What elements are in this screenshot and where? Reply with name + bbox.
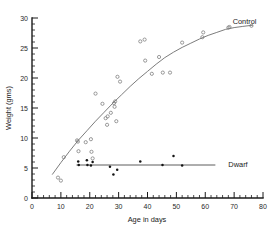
control-data-point [115, 120, 118, 123]
dwarf-data-point [86, 164, 89, 167]
x-tick-label: 50 [172, 203, 180, 210]
dwarf-data-point [77, 160, 80, 163]
y-tick-label: 10 [20, 135, 28, 142]
dwarf-data-point [112, 173, 115, 176]
y-tick-label: 20 [20, 75, 28, 82]
dwarf-data-point [161, 164, 164, 167]
control-data-point [104, 117, 107, 120]
y-tick-label: 15 [20, 105, 28, 112]
x-tick-label: 30 [115, 203, 123, 210]
fitted-curves [52, 25, 253, 174]
control-data-point [139, 40, 142, 43]
y-tick-label: 25 [20, 45, 28, 52]
dwarf-data-point [172, 155, 175, 158]
y-tick-label: 5 [24, 165, 28, 172]
dwarf-data-point [109, 166, 112, 169]
axes-group [32, 18, 263, 198]
x-axis-ticks: 01020304050607080 [30, 192, 267, 210]
control-data-point [77, 150, 80, 153]
control-data-point [59, 179, 62, 182]
control-data-point [113, 105, 116, 108]
control-data-point [56, 176, 59, 179]
control-data-point [101, 102, 104, 105]
control-data-point [168, 71, 171, 74]
chart-page: 051015202530 01020304050607080 ControlDw… [0, 0, 279, 228]
dwarf-data-point [181, 164, 184, 167]
y-tick-label: 0 [24, 195, 28, 202]
control-data-point [181, 41, 184, 44]
dwarf-data-point [86, 159, 89, 162]
control-data-point [150, 72, 153, 75]
y-axis-ticks: 051015202530 [20, 15, 38, 202]
y-axis-title: Weight (gms) [4, 86, 13, 130]
x-tick-label: 70 [230, 203, 238, 210]
series-label-control: Control [233, 17, 257, 26]
control-fit-curve [52, 25, 253, 174]
data-points [56, 24, 253, 182]
dwarf-data-point [91, 161, 94, 164]
x-tick-label: 60 [201, 203, 209, 210]
x-tick-label: 20 [86, 203, 94, 210]
dwarf-data-point [116, 169, 119, 172]
dwarf-data-point [90, 164, 93, 167]
control-data-point [89, 138, 92, 141]
x-tick-label: 10 [57, 203, 65, 210]
control-data-point [91, 157, 94, 160]
control-data-point [105, 123, 108, 126]
control-data-point [106, 115, 109, 118]
x-tick-label: 0 [30, 203, 34, 210]
dwarf-data-point [78, 164, 81, 167]
growth-curve-chart: 051015202530 01020304050607080 ControlDw… [0, 0, 279, 228]
y-tick-label: 30 [20, 15, 28, 22]
control-data-point [144, 59, 147, 62]
control-data-point [143, 38, 146, 41]
control-data-point [157, 55, 160, 58]
x-tick-label: 80 [259, 203, 267, 210]
control-data-point [118, 80, 121, 83]
series-label-dwarf: Dwarf [228, 160, 248, 169]
control-data-point [90, 150, 93, 153]
control-data-point [94, 92, 97, 95]
dwarf-data-point [139, 160, 142, 163]
control-data-point [161, 71, 164, 74]
control-data-point [84, 141, 87, 144]
series-labels: ControlDwarf [228, 17, 257, 169]
x-tick-label: 40 [144, 203, 152, 210]
control-data-point [202, 31, 205, 34]
control-data-point [116, 75, 119, 78]
x-axis-title: Age in days [128, 215, 167, 224]
control-data-point [109, 111, 112, 114]
